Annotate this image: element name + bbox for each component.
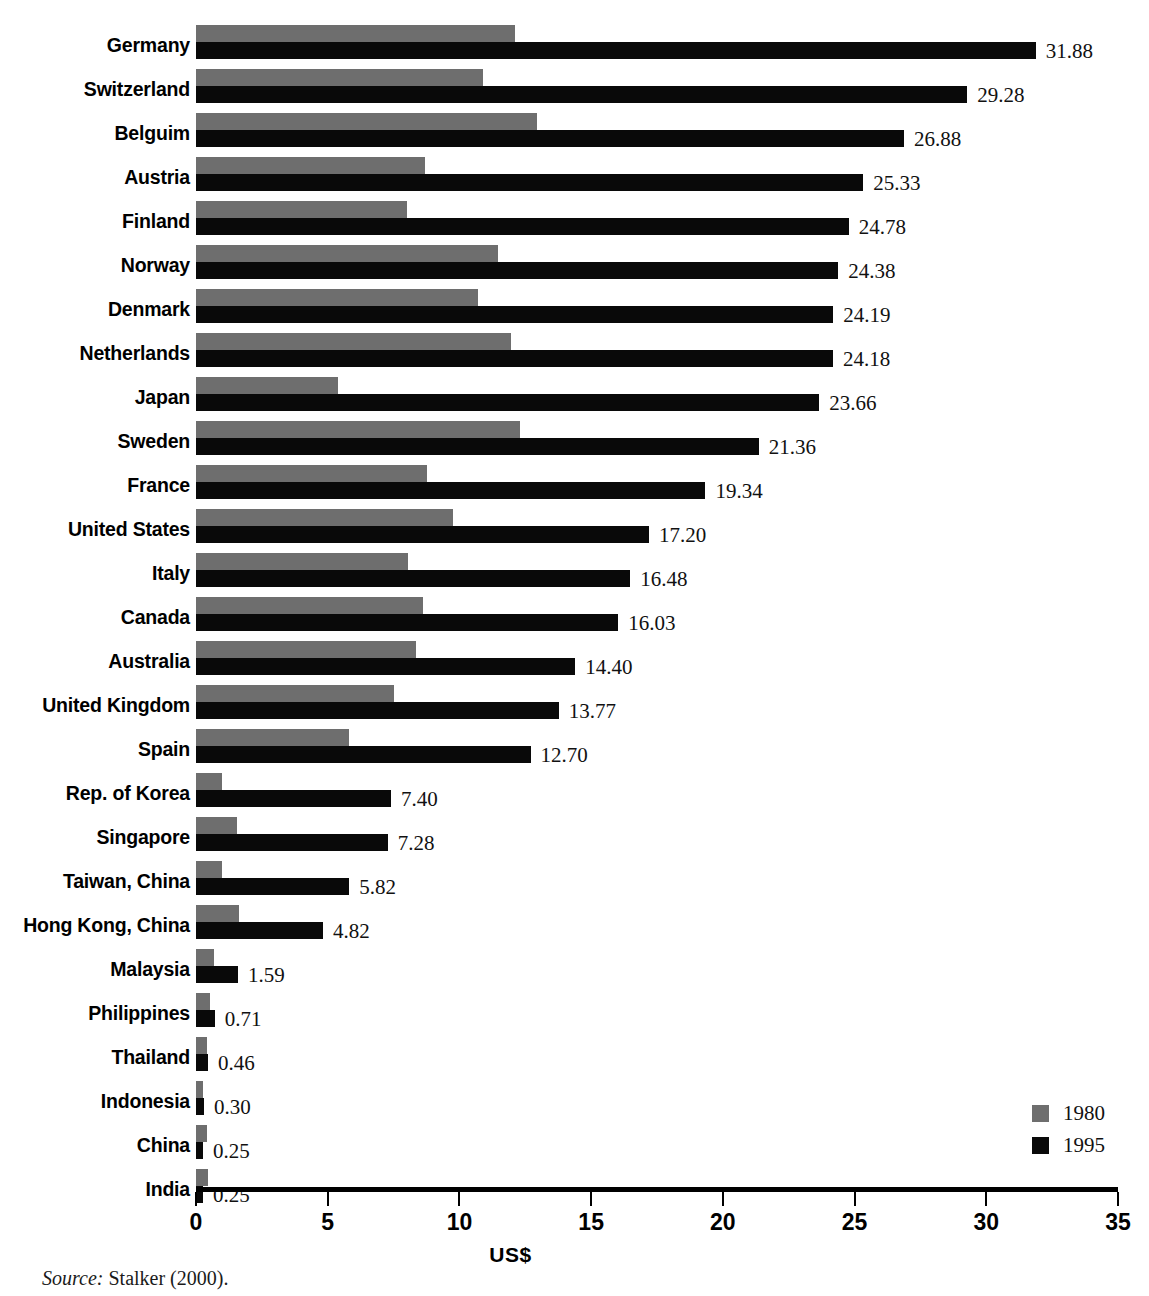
chart-row: France19.34 [0,464,1149,508]
bar-1995 [196,262,838,279]
bar-1980 [196,1037,207,1054]
category-label: Japan [0,382,190,412]
bar-1995 [196,438,759,455]
category-label: Spain [0,734,190,764]
x-tick [195,1192,197,1206]
bar-1980 [196,729,349,746]
value-label: 0.25 [213,1141,250,1162]
category-label: Singapore [0,822,190,852]
legend-label-1980: 1980 [1063,1103,1105,1124]
category-label: China [0,1130,190,1160]
value-label: 7.40 [401,789,438,810]
chart-row: Italy16.48 [0,552,1149,596]
bar-1995 [196,614,618,631]
bar-1995 [196,922,323,939]
value-label: 29.28 [977,85,1024,106]
bar-1980 [196,905,239,922]
value-label: 4.82 [333,921,370,942]
source-note: Source: Stalker (2000). [42,1266,228,1290]
bar-1995 [196,130,904,147]
value-label: 0.71 [225,1009,262,1030]
category-label: Denmark [0,294,190,324]
bar-1980 [196,1169,208,1186]
bar-1995 [196,658,575,675]
value-label: 16.48 [640,569,687,590]
value-label: 7.28 [398,833,435,854]
source-prefix: Source: [42,1267,103,1289]
value-label: 14.40 [585,657,632,678]
x-tick [458,1192,460,1206]
bar-1995 [196,350,833,367]
bar-1980 [196,421,520,438]
bar-1980 [196,1081,203,1098]
chart-row: Thailand0.46 [0,1036,1149,1080]
x-tick-label: 20 [710,1209,736,1235]
x-tick-label: 35 [1105,1209,1131,1235]
category-label: Canada [0,602,190,632]
category-label: Germany [0,30,190,60]
bar-1995 [196,966,238,983]
category-label: Finland [0,206,190,236]
chart-row: Hong Kong, China4.82 [0,904,1149,948]
legend-item-1995: 1995 [1032,1129,1105,1161]
bar-1995 [196,1098,204,1115]
chart-row: Sweden21.36 [0,420,1149,464]
category-label: Philippines [0,998,190,1028]
value-label: 24.78 [859,217,906,238]
x-tick-label: 10 [447,1209,473,1235]
category-label: India [0,1174,190,1204]
bar-1980 [196,861,222,878]
x-axis-title-text: US$ [489,1243,531,1266]
value-label: 31.88 [1046,41,1093,62]
chart-row: Denmark24.19 [0,288,1149,332]
chart-row: Taiwan, China5.82 [0,860,1149,904]
bar-1995 [196,394,819,411]
bar-1980 [196,817,237,834]
bar-1980 [196,509,453,526]
category-label: United Kingdom [0,690,190,720]
x-tick [854,1192,856,1206]
chart-row: Australia14.40 [0,640,1149,684]
value-label: 12.70 [541,745,588,766]
bar-1995 [196,746,531,763]
x-tick-label: 5 [321,1209,334,1235]
value-label: 26.88 [914,129,961,150]
value-label: 5.82 [359,877,396,898]
bar-1980 [196,201,407,218]
chart-row: Netherlands24.18 [0,332,1149,376]
chart-row: Rep. of Korea7.40 [0,772,1149,816]
chart-row: United States17.20 [0,508,1149,552]
chart-row: Spain12.70 [0,728,1149,772]
bar-1980 [196,993,210,1010]
legend-label-1995: 1995 [1063,1135,1105,1156]
bar-1995 [196,570,630,587]
bar-1980 [196,773,222,790]
chart-row: Austria25.33 [0,156,1149,200]
chart-plot-area: Germany31.88Switzerland29.28Belguim26.88… [0,24,1149,1212]
chart-row: Singapore7.28 [0,816,1149,860]
category-label: Malaysia [0,954,190,984]
category-label: Rep. of Korea [0,778,190,808]
bar-1995 [196,790,391,807]
x-axis-line [196,1187,1118,1192]
x-tick [985,1192,987,1206]
legend-item-1980: 1980 [1032,1097,1105,1129]
category-label: Sweden [0,426,190,456]
bar-1995 [196,1010,215,1027]
source-text: Stalker (2000). [108,1267,228,1289]
bar-1995 [196,1054,208,1071]
bar-1980 [196,949,214,966]
x-tick-label: 0 [190,1209,203,1235]
bar-1980 [196,113,537,130]
x-tick [1117,1192,1119,1206]
bar-1995 [196,174,863,191]
bar-1995 [196,1142,203,1159]
category-label: Norway [0,250,190,280]
value-label: 1.59 [248,965,285,986]
category-label: Switzerland [0,74,190,104]
chart-row: Belguim26.88 [0,112,1149,156]
bar-1980 [196,685,394,702]
value-label: 0.46 [218,1053,255,1074]
bar-chart: Germany31.88Switzerland29.28Belguim26.88… [0,0,1149,1296]
bar-1995 [196,878,349,895]
